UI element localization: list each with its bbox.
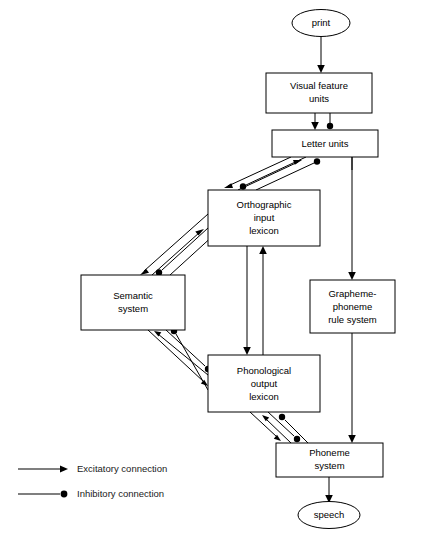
- connection-letter-units-orthographic-lexicon-bundle: [224, 157, 320, 190]
- legend-item-inhibitory-label: Inhibitory connection: [77, 488, 164, 499]
- diagram-canvas: print Visual feature units Letter units …: [0, 0, 423, 538]
- node-orthographic-input-lexicon-label-line3: lexicon: [249, 225, 279, 236]
- node-visual-feature-units-label-line1: Visual feature: [290, 80, 348, 91]
- node-letter-units: Letter units: [272, 130, 378, 157]
- node-print: print: [292, 10, 350, 37]
- connection-phonological-lexicon-phoneme-system-bundle: [250, 412, 308, 443]
- node-orthographic-input-lexicon: Orthographic input lexicon: [208, 190, 320, 246]
- connection-visual-feature-units-to-letter-units-excitatory: [311, 113, 319, 130]
- node-visual-feature-units-label-line2: units: [309, 93, 329, 104]
- legend-item-excitatory-label: Excitatory connection: [77, 463, 167, 474]
- node-visual-feature-units: Visual feature units: [266, 73, 372, 113]
- node-phonological-output-lexicon-label-line2: output: [251, 378, 278, 389]
- node-grapheme-phoneme-label-line3: rule system: [328, 314, 377, 325]
- node-phonological-output-lexicon: Phonological output lexicon: [208, 355, 320, 412]
- connection-print-to-visual-feature-units: [317, 36, 325, 73]
- connection-phoneme-system-to-speech: [325, 477, 333, 503]
- connection-visual-feature-units-to-letter-units-inhibitory: [327, 113, 333, 129]
- connection-semantic-system-phonological-lexicon-bundle: [148, 328, 211, 390]
- node-speech-label: speech: [314, 509, 345, 520]
- node-semantic-system: Semantic system: [81, 275, 185, 330]
- node-orthographic-input-lexicon-label-line2: input: [254, 212, 275, 223]
- node-phoneme-system-label-line2: system: [314, 460, 344, 471]
- node-grapheme-phoneme-rule-system: Grapheme- phoneme rule system: [310, 280, 395, 333]
- node-phonological-output-lexicon-label-line3: lexicon: [249, 391, 279, 402]
- connection-phonological-to-orthographic-lexicon: [259, 246, 267, 355]
- node-letter-units-label: Letter units: [302, 138, 349, 149]
- node-orthographic-input-lexicon-label-line1: Orthographic: [237, 199, 292, 210]
- node-phoneme-system-label-line1: Phoneme: [309, 447, 350, 458]
- connection-orthographic-to-phonological-lexicon: [243, 246, 251, 355]
- legend-item-inhibitory: Inhibitory connection: [18, 488, 164, 499]
- node-grapheme-phoneme-label-line2: phoneme: [333, 301, 373, 312]
- node-semantic-system-label-line2: system: [118, 303, 148, 314]
- legend-item-excitatory: Excitatory connection: [18, 463, 167, 474]
- node-semantic-system-label-line1: Semantic: [113, 290, 153, 301]
- flowchart-diagram: print Visual feature units Letter units …: [0, 0, 423, 538]
- connection-grapheme-phoneme-to-phoneme-system: [348, 333, 356, 443]
- connection-letter-units-to-grapheme-phoneme: [348, 157, 356, 280]
- node-grapheme-phoneme-label-line1: Grapheme-: [328, 288, 376, 299]
- node-speech: speech: [298, 502, 360, 529]
- node-print-label: print: [312, 17, 331, 28]
- node-phonological-output-lexicon-label-line1: Phonological: [237, 365, 291, 376]
- node-phoneme-system: Phoneme system: [276, 443, 383, 477]
- legend: Excitatory connection Inhibitory connect…: [18, 463, 167, 499]
